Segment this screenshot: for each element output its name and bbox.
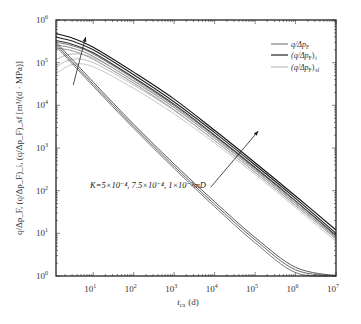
y-axis-title: q/Δp_F, (q/Δp_F)_i, (q/Δp_F)_sf [m³/(d ·… xyxy=(14,61,24,235)
log-log-chart: 100101102103104105106 101102103104105106… xyxy=(0,0,361,324)
permeability-annotation: K=5×10⁻⁴, 7.5×10⁻⁴, 1×10⁻³mD xyxy=(89,180,207,190)
legend-label-q-dpf-i: (q/ΔpF)i xyxy=(291,51,317,61)
